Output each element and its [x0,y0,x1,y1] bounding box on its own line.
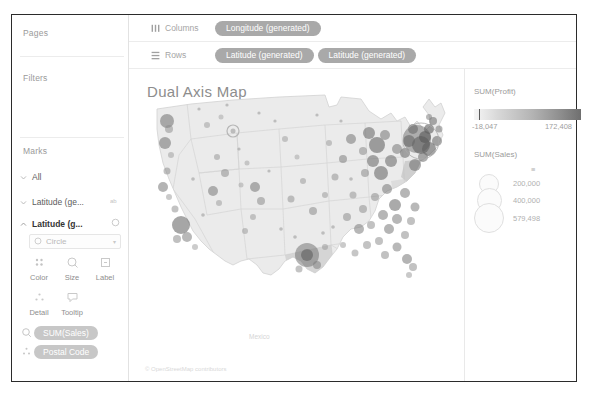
columns-pill-list: Longitude (generated) [215,21,321,36]
marks-row-label: Latitude (ge... [32,197,84,207]
size-legend-value: 200,000 [513,179,540,188]
rows-pill-list: Latitude (generated) Latitude (generated… [215,48,416,63]
marks-detail-button[interactable]: Detail [24,291,54,317]
marks-sidebar: Pages Filters Marks All Latitude (ge... … [12,15,129,381]
size-encoding-icon [21,327,32,340]
marks-row-latitude-1[interactable]: Latitude (ge... [20,195,84,209]
chevron-up-icon [20,221,27,228]
size-legend-value: 579,498 [513,214,540,223]
svg-text:ab: ab [110,198,117,204]
marks-tooltip-label: Tooltip [57,308,87,317]
detail-icon [24,291,54,307]
size-icon [57,256,87,272]
pages-shelf-label: Pages [23,28,48,38]
marks-row-all[interactable]: All [20,170,41,184]
columns-icon [148,24,162,33]
marks-card-label: Marks [23,146,47,156]
mark-type-value: Circle [46,237,109,246]
mark-type-dropdown[interactable]: Circle ▾ [29,234,121,249]
pill-latitude-1[interactable]: Latitude (generated) [215,48,314,63]
color-palette-icon [24,256,54,272]
sidebar-divider-2 [20,137,124,138]
size-legend-value: 400,000 [513,196,540,205]
marks-tooltip-button[interactable]: Tooltip [57,291,87,317]
color-legend-title: SUM(Profit) [474,87,516,96]
color-legend-tick [479,109,480,120]
legend-panel: SUM(Profit) -18,047 172,408 SUM(Sales) ≡… [464,69,576,381]
marks-pill-label: SUM(Sales) [43,328,89,338]
chevron-down-icon [20,199,27,206]
marks-label-label: Label [90,273,120,282]
marks-row-label: Latitude (g... [32,219,83,229]
pill-latitude-2[interactable]: Latitude (generated) [318,48,417,63]
marks-detail-label: Detail [24,308,54,317]
rows-icon [148,51,162,60]
tooltip-icon [57,291,87,307]
marks-color-label: Color [24,273,54,282]
marks-row-label: All [32,172,41,182]
pill-label: Latitude (generated) [329,50,406,60]
worksheet-frame: Pages Filters Marks All Latitude (ge... … [11,14,577,382]
color-legend-max: 172,408 [545,122,572,131]
marks-size-label: Size [57,273,87,282]
sidebar-divider-1 [20,56,124,57]
detail-encoding-icon [21,346,32,359]
marks-row-1-type-icon: ab [110,196,119,207]
size-legend-title: SUM(Sales) [474,150,517,159]
pill-label: Latitude (generated) [226,50,303,60]
marks-size-button[interactable]: Size [57,256,87,282]
marks-row-latitude-2[interactable]: Latitude (g... [20,217,83,231]
us-map[interactable] [129,69,464,381]
size-legend: ≡ 200,000 400,000 579,498 [469,166,577,231]
rows-shelf-label: Rows [165,50,205,60]
color-legend-min: -18,047 [472,122,497,131]
marks-pill-sum-sales[interactable]: SUM(Sales) [34,326,98,340]
filters-shelf-label: Filters [23,73,48,83]
columns-shelf[interactable]: Columns Longitude (generated) [129,15,576,42]
chevron-down-icon: ▾ [113,238,116,245]
map-attribution: © OpenStreetMap contributors [145,366,226,372]
map-country-label-mexico: Mexico [249,333,270,340]
rows-shelf[interactable]: Rows Latitude (generated) Latitude (gene… [129,42,576,69]
marks-pill-label: Postal Code [43,347,89,357]
columns-shelf-label: Columns [165,23,205,33]
chevron-down-icon [20,174,27,181]
marks-color-button[interactable]: Color [24,256,54,282]
circle-icon [34,237,42,247]
marks-row-2-type-icon [111,218,120,229]
color-legend-gradient[interactable] [474,109,581,120]
tableau-worksheet: Pages Filters Marks All Latitude (ge... … [0,0,590,408]
map-view[interactable]: Dual Axis Map [129,69,464,381]
marks-label-button[interactable]: Label [90,256,120,282]
label-icon [90,256,120,272]
size-legend-header-tick: ≡ [531,165,535,174]
size-legend-item: 579,498 [469,211,577,231]
size-legend-circle [474,203,504,233]
marks-pill-postal-code[interactable]: Postal Code [34,345,98,359]
pill-longitude[interactable]: Longitude (generated) [215,21,321,36]
pill-label: Longitude (generated) [226,23,310,33]
